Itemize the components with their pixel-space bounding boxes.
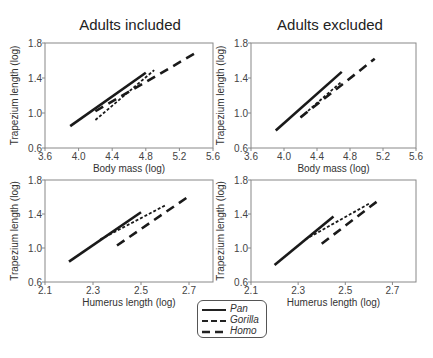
series-line-pan <box>70 73 146 126</box>
legend-label: Gorilla <box>230 314 259 325</box>
x-tick-label: 2.5 <box>338 285 352 296</box>
solid-line-icon <box>202 309 226 311</box>
y-tick-label: 1.4 <box>28 209 42 220</box>
x-tick-label: 3.6 <box>38 151 52 162</box>
x-tick-label: 2.3 <box>291 285 305 296</box>
x-tick-label: 5.2 <box>172 151 186 162</box>
y-tick-label: 1.8 <box>28 38 42 49</box>
x-axis-label: Humerus length (log) <box>287 297 380 308</box>
dotted-line-icon <box>202 320 226 322</box>
x-tick-label: 2.1 <box>244 285 258 296</box>
x-tick-label: 4.8 <box>139 151 153 162</box>
x-tick-label: 2.1 <box>38 285 52 296</box>
x-tick-label: 2.3 <box>86 285 100 296</box>
legend-label: Pan <box>230 303 248 314</box>
y-axis-label: Trapezium length (log) <box>9 181 20 281</box>
x-tick-label: 4.0 <box>72 151 86 162</box>
plot-frame <box>45 180 213 282</box>
x-tick-label: 2.7 <box>385 285 399 296</box>
legend: Pan Gorilla Homo <box>197 300 267 338</box>
series-line-homo <box>95 53 196 112</box>
y-axis-label: Trapezium length (log) <box>215 46 226 146</box>
y-tick-label: 1.4 <box>28 73 42 84</box>
x-tick-label: 4.0 <box>277 151 291 162</box>
series-line-homo <box>301 59 375 118</box>
y-tick-label: 1.0 <box>28 243 42 254</box>
x-tick-label: 5.6 <box>409 151 423 162</box>
plot-frame <box>251 43 416 148</box>
x-tick-label: 3.6 <box>244 151 258 162</box>
y-axis-label: Trapezium length (log) <box>9 46 20 146</box>
x-tick-label: 4.4 <box>105 151 119 162</box>
x-tick-label: 2.5 <box>134 285 148 296</box>
y-tick-label: 1.4 <box>234 73 248 84</box>
series-line-homo <box>322 199 381 244</box>
legend-label: Homo <box>230 325 257 336</box>
y-tick-label: 1.8 <box>28 175 42 186</box>
y-tick-label: 1.4 <box>234 209 248 220</box>
x-axis-label: Body mass (log) <box>297 163 369 174</box>
x-tick-label: 4.8 <box>343 151 357 162</box>
y-tick-label: 1.0 <box>234 108 248 119</box>
x-tick-label: 2.7 <box>182 285 196 296</box>
dashed-line-icon <box>202 329 228 335</box>
y-tick-label: 1.0 <box>234 243 248 254</box>
y-tick-label: 1.8 <box>234 175 248 186</box>
x-tick-label: 5.6 <box>206 151 220 162</box>
legend-item-homo: Homo <box>202 326 266 338</box>
x-tick-label: 5.2 <box>376 151 390 162</box>
y-tick-label: 1.8 <box>234 38 248 49</box>
series-line-pan <box>276 72 342 131</box>
x-axis-label: Body mass (log) <box>93 163 165 174</box>
x-tick-label: 4.4 <box>310 151 324 162</box>
plot-frame <box>251 180 416 282</box>
x-axis-label: Humerus length (log) <box>82 297 175 308</box>
y-tick-label: 1.0 <box>28 108 42 119</box>
y-axis-label: Trapezium length (log) <box>215 181 226 281</box>
series-line-gorilla <box>305 204 369 240</box>
